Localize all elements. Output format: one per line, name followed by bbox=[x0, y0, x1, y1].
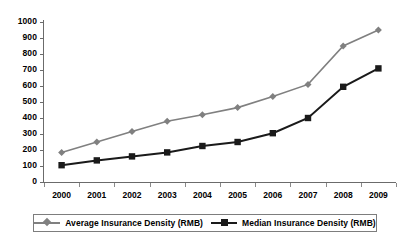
data-point-square bbox=[58, 162, 64, 168]
legend-entry[interactable]: Average Insurance Density (RMB) bbox=[34, 218, 203, 228]
chart-legend: Average Insurance Density (RMB)Median In… bbox=[33, 214, 377, 232]
series-line bbox=[62, 30, 379, 152]
legend-swatch bbox=[34, 218, 60, 228]
series-plot bbox=[0, 0, 410, 200]
data-point-diamond bbox=[164, 118, 171, 125]
data-point-diamond bbox=[199, 111, 206, 118]
legend-label: Median Insurance Density (RMB) bbox=[242, 218, 376, 228]
legend-square-icon bbox=[221, 219, 228, 226]
series-line bbox=[62, 68, 379, 165]
data-point-diamond bbox=[93, 139, 100, 146]
legend-diamond-icon bbox=[43, 218, 51, 226]
insurance-density-line-chart: 10009008007006005004003002001000 2000200… bbox=[0, 0, 410, 239]
data-point-square bbox=[340, 84, 346, 90]
legend-entry[interactable]: Median Insurance Density (RMB) bbox=[211, 218, 376, 228]
legend-swatch bbox=[211, 218, 237, 228]
data-point-square bbox=[164, 149, 170, 155]
data-point-square bbox=[129, 153, 135, 159]
data-point-square bbox=[94, 157, 100, 163]
data-point-diamond bbox=[129, 128, 136, 135]
data-point-square bbox=[375, 65, 381, 71]
data-point-diamond bbox=[269, 93, 276, 100]
data-point-diamond bbox=[375, 27, 382, 34]
data-point-square bbox=[234, 139, 240, 145]
data-point-square bbox=[270, 130, 276, 136]
data-point-square bbox=[305, 115, 311, 121]
legend-label: Average Insurance Density (RMB) bbox=[65, 218, 203, 228]
series-average bbox=[58, 27, 382, 156]
data-point-square bbox=[199, 143, 205, 149]
data-point-diamond bbox=[234, 104, 241, 111]
series-median bbox=[58, 65, 381, 168]
data-point-diamond bbox=[58, 149, 65, 156]
